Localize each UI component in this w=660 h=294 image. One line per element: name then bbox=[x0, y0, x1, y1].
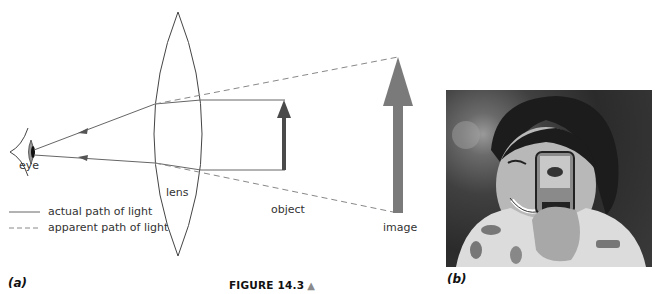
lens-shape bbox=[154, 12, 202, 256]
eye-label: eye bbox=[19, 160, 39, 171]
photo-girl-with-magnifier bbox=[446, 90, 652, 267]
lens-label: lens bbox=[166, 187, 189, 198]
object-arrow bbox=[277, 100, 291, 170]
image-label: image bbox=[383, 222, 417, 233]
legend-actual-label: actual path of light bbox=[48, 206, 152, 217]
actual-rays bbox=[34, 100, 285, 170]
optics-diagram bbox=[0, 0, 440, 294]
legend-apparent-label: apparent path of light bbox=[48, 222, 168, 233]
object-label: object bbox=[271, 204, 305, 215]
panel-a-label: (a) bbox=[8, 276, 27, 290]
photo-illustration bbox=[446, 90, 652, 267]
panel-b-label: (b) bbox=[447, 272, 467, 286]
image-arrow bbox=[383, 57, 413, 213]
figure-caption: FIGURE 14.3▲ bbox=[229, 279, 315, 291]
ray-arrow-icon bbox=[78, 128, 88, 134]
caption-text: FIGURE 14.3 bbox=[229, 279, 304, 291]
up-triangle-icon: ▲ bbox=[307, 280, 315, 291]
apparent-rays bbox=[155, 57, 398, 213]
